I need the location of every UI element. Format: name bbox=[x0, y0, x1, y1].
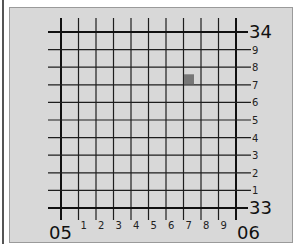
northing-label-major-top: 34 bbox=[249, 21, 272, 42]
northing-label-minor: 5 bbox=[252, 115, 258, 126]
easting-label-minor: 1 bbox=[81, 220, 87, 231]
northing-label-minor: 8 bbox=[252, 62, 258, 73]
easting-label-minor: 4 bbox=[133, 220, 139, 231]
northing-label-minor: 3 bbox=[252, 150, 258, 161]
northing-label-minor: 6 bbox=[252, 97, 258, 108]
grid-reference-diagram: 05 06 33 34 123456789123456789 bbox=[0, 0, 305, 249]
northing-label-minor: 2 bbox=[252, 168, 258, 179]
easting-label-minor: 5 bbox=[151, 220, 157, 231]
northing-label-minor: 1 bbox=[252, 185, 258, 196]
easting-label-minor: 6 bbox=[168, 220, 174, 231]
grid-labels: 05 06 33 34 123456789123456789 bbox=[49, 21, 272, 243]
easting-label-minor: 7 bbox=[186, 220, 192, 231]
grid-lines bbox=[48, 18, 251, 220]
easting-label-minor: 2 bbox=[98, 220, 104, 231]
northing-label-major-bottom: 33 bbox=[249, 197, 272, 218]
northing-label-minor: 9 bbox=[252, 45, 258, 56]
northing-label-minor: 7 bbox=[252, 80, 258, 91]
easting-label-minor: 3 bbox=[116, 220, 122, 231]
easting-label-major-left: 05 bbox=[49, 222, 72, 243]
easting-label-minor: 8 bbox=[203, 220, 209, 231]
northing-label-minor: 4 bbox=[252, 133, 258, 144]
highlighted-square bbox=[184, 74, 194, 84]
easting-label-minor: 9 bbox=[221, 220, 227, 231]
easting-label-major-right: 06 bbox=[237, 222, 260, 243]
